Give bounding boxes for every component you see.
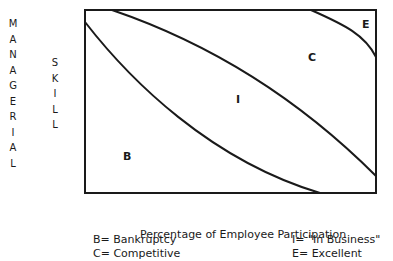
legend-left: B= Bankruptcy C= Competitive bbox=[93, 221, 180, 261]
region-i-label: I bbox=[236, 93, 240, 106]
legend-bankruptcy: B= Bankruptcy bbox=[93, 233, 180, 247]
legend-right: I= "In Business" E= Excellent bbox=[292, 221, 380, 261]
region-e-label: E bbox=[362, 18, 370, 31]
legend-competitive: C= Competitive bbox=[93, 247, 180, 261]
legend-in-business: I= "In Business" bbox=[292, 233, 380, 247]
region-c-label: C bbox=[308, 51, 316, 64]
legend-excellent: E= Excellent bbox=[292, 247, 380, 261]
region-b-label: B bbox=[123, 150, 131, 163]
plot-frame bbox=[85, 10, 376, 193]
